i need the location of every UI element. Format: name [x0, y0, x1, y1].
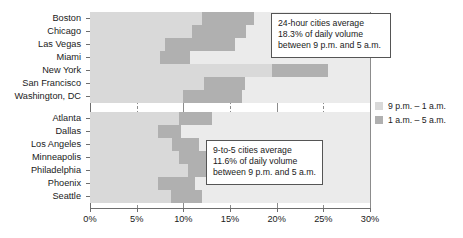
x-tick-label-25pct: 25% — [314, 214, 332, 224]
legend: 9 p.m. – 1 a.m. 1 a.m. – 5 a.m. — [375, 99, 446, 127]
legend-swatch-icon-9pm-1am — [375, 102, 383, 110]
x-tick-30pct — [370, 208, 371, 212]
bar-segment-1am-5am-los-angeles — [172, 138, 199, 151]
category-label-new-york: New York — [0, 64, 86, 77]
bar-segment-1am-5am-las-vegas — [165, 38, 235, 51]
x-tick-20pct — [277, 208, 278, 212]
bar-row-seattle — [90, 190, 370, 203]
category-label-san-francisco: San Francisco — [0, 77, 86, 90]
bar-row-atlanta — [90, 112, 370, 125]
annotation-9to5-line-3: between 9 p.m. and 5 a.m. — [213, 167, 316, 178]
category-label-atlanta: Atlanta — [0, 112, 86, 125]
bar-segment-9pm-1am-boston — [90, 12, 202, 25]
category-axis-labels: Boston Chicago Las Vegas Miami New York … — [0, 12, 86, 203]
x-tick-label-0pct: 0% — [83, 214, 96, 224]
bar-segment-1am-5am-boston — [202, 12, 254, 25]
x-tick-label-5pct: 5% — [130, 214, 143, 224]
bar-row-dallas — [90, 125, 370, 138]
category-label-dallas: Dallas — [0, 125, 86, 138]
category-label-seattle: Seattle — [0, 190, 86, 203]
bar-segment-1am-5am-washington-dc — [183, 90, 242, 103]
x-tick-0pct — [90, 208, 91, 212]
bar-segment-1am-5am-dallas — [158, 125, 181, 138]
legend-swatch-icon-1am-5am — [375, 116, 383, 124]
bar-segment-9pm-1am-atlanta — [90, 112, 179, 125]
bar-segment-1am-5am-seattle — [171, 190, 202, 203]
category-label-chicago: Chicago — [0, 25, 86, 38]
bar-segment-1am-5am-chicago — [192, 25, 246, 38]
category-label-washington-dc: Washington, DC — [0, 90, 86, 103]
x-tick-10pct — [183, 208, 184, 212]
annotation-24-hour-cities: 24-hour cities average 18.3% of daily vo… — [271, 13, 391, 58]
x-tick-label-10pct: 10% — [174, 214, 192, 224]
category-label-los-angeles: Los Angeles — [0, 138, 86, 151]
category-label-minneapolis: Minneapolis — [0, 151, 86, 164]
bar-segment-9pm-1am-los-angeles — [90, 138, 172, 151]
bar-segment-9pm-1am-washington-dc — [90, 90, 183, 103]
legend-label-9pm-1am: 9 p.m. – 1 a.m. — [388, 101, 446, 111]
bar-segment-1am-5am-atlanta — [179, 112, 213, 125]
annotation-9to5-line-1: 9-to-5 cities average — [213, 145, 316, 156]
bar-segment-9pm-1am-las-vegas — [90, 38, 165, 51]
annotation-9to5-line-2: 11.6% of daily volume — [213, 156, 316, 167]
bar-segment-9pm-1am-miami — [90, 51, 160, 64]
bar-segment-1am-5am-new-york — [272, 64, 328, 77]
bar-row-san-francisco — [90, 77, 370, 90]
bar-segment-9pm-1am-chicago — [90, 25, 192, 38]
x-tick-15pct — [230, 208, 231, 212]
bar-segment-9pm-1am-minneapolis — [90, 151, 179, 164]
category-label-philadelphia: Philadelphia — [0, 164, 86, 177]
category-label-miami: Miami — [0, 51, 86, 64]
x-tick-label-30pct: 30% — [361, 214, 379, 224]
legend-item-1am-5am: 1 a.m. – 5 a.m. — [375, 113, 446, 127]
bar-segment-9pm-1am-seattle — [90, 190, 171, 203]
bar-segment-1am-5am-phoenix — [158, 177, 194, 190]
annotation-24h-line-2: 18.3% of daily volume — [278, 29, 384, 40]
category-label-phoenix: Phoenix — [0, 177, 86, 190]
annotation-9-to-5-cities: 9-to-5 cities average 11.6% of daily vol… — [206, 140, 323, 185]
bar-segment-9pm-1am-new-york — [90, 64, 272, 77]
legend-label-1am-5am: 1 a.m. – 5 a.m. — [388, 115, 446, 125]
legend-item-9pm-1am: 9 p.m. – 1 a.m. — [375, 99, 446, 113]
bar-segment-1am-5am-miami — [160, 51, 190, 64]
bar-segment-1am-5am-san-francisco — [204, 77, 245, 90]
bar-row-new-york — [90, 64, 370, 77]
x-tick-25pct — [323, 208, 324, 212]
bar-segment-9pm-1am-san-francisco — [90, 77, 204, 90]
x-tick-label-20pct: 20% — [267, 214, 285, 224]
category-label-las-vegas: Las Vegas — [0, 38, 86, 51]
stacked-bar-chart: Boston Chicago Las Vegas Miami New York … — [0, 0, 463, 238]
x-tick-5pct — [137, 208, 138, 212]
bar-segment-9pm-1am-philadelphia — [90, 164, 188, 177]
annotation-24h-line-1: 24-hour cities average — [278, 18, 384, 29]
bar-row-washington-dc — [90, 90, 370, 103]
category-label-boston: Boston — [0, 12, 86, 25]
x-tick-label-15pct: 15% — [221, 214, 239, 224]
bar-segment-9pm-1am-dallas — [90, 125, 158, 138]
annotation-24h-line-3: between 9 p.m. and 5 a.m. — [278, 40, 384, 51]
bar-segment-9pm-1am-phoenix — [90, 177, 158, 190]
